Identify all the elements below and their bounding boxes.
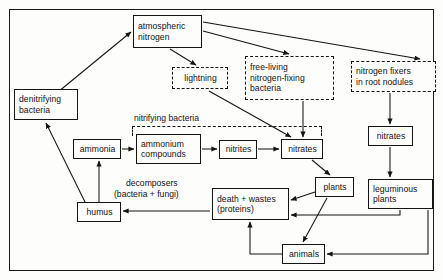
nitrogen-cycle-diagram: atmospheric nitrogen denitrifying bacter…: [0, 0, 443, 280]
node-label: leguminous: [373, 184, 417, 194]
node-ammonium-compounds[interactable]: ammonium compounds: [136, 134, 201, 164]
node-label: free-living: [250, 62, 288, 72]
label-nitrifying-bacteria: nitrifying bacteria: [134, 113, 199, 123]
node-label: bacteria: [19, 105, 50, 115]
node-label: plants: [323, 182, 346, 192]
node-ammonia[interactable]: ammonia: [73, 139, 121, 159]
node-humus[interactable]: humus: [77, 202, 121, 222]
node-label: ammonia: [80, 144, 116, 154]
node-label: humus: [86, 207, 112, 217]
node-nitrites[interactable]: nitrites: [219, 140, 257, 159]
node-label: in root nodules: [356, 77, 413, 87]
node-lightning[interactable]: lightning: [172, 67, 228, 89]
node-label: nitrogen-fixing: [250, 73, 305, 83]
node-label: nitrogen fixers: [356, 66, 411, 76]
node-label: death + wastes: [217, 194, 276, 204]
node-label: lightning: [184, 73, 216, 83]
node-label: bacteria: [250, 83, 281, 93]
node-label: plants: [373, 194, 396, 204]
node-leguminous-plants[interactable]: leguminous plants: [368, 179, 433, 209]
node-death-and-wastes[interactable]: death + wastes (proteins): [212, 188, 289, 220]
node-atmospheric-nitrogen[interactable]: atmospheric nitrogen: [133, 15, 202, 48]
node-nitrogen-fixers-in-root-nodules[interactable]: nitrogen fixers in root nodules: [351, 61, 436, 92]
node-animals[interactable]: animals: [282, 244, 325, 264]
node-nitrates-main[interactable]: nitrates: [281, 139, 323, 159]
node-label: ammonium: [141, 139, 184, 149]
node-free-living-nitrogen-fixing-bacteria[interactable]: free-living nitrogen-fixing bacteria: [245, 56, 334, 100]
node-label: denitrifying: [19, 94, 61, 104]
label-decomposers-line1: decomposers: [126, 178, 178, 188]
node-label: nitrogen: [138, 32, 169, 42]
node-label: atmospheric: [138, 21, 185, 31]
node-label: compounds: [141, 149, 186, 159]
node-label: (proteins): [217, 204, 254, 214]
node-plants[interactable]: plants: [315, 177, 354, 197]
node-denitrifying-bacteria[interactable]: denitrifying bacteria: [14, 89, 78, 120]
label-decomposers-line2: (bacteria + fungi): [114, 189, 179, 199]
node-label: nitrates: [377, 131, 406, 141]
node-label: animals: [289, 249, 319, 259]
node-label: nitrites: [226, 144, 252, 154]
node-label: nitrates: [288, 144, 317, 154]
node-nitrates-right[interactable]: nitrates: [368, 126, 413, 146]
